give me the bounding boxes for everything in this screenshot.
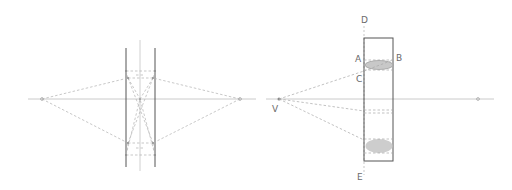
label-v: V xyxy=(272,104,279,114)
label-e: E xyxy=(357,172,363,182)
label-a: A xyxy=(355,54,362,64)
top-ellipse xyxy=(365,61,393,70)
label-c: C xyxy=(356,74,362,84)
diagram-canvas: D E A B C V xyxy=(0,0,512,190)
bottom-ellipse xyxy=(366,139,393,153)
right-dashed-construction xyxy=(279,60,393,153)
right-diagram: D E A B C V xyxy=(266,15,494,182)
label-d: D xyxy=(361,15,368,25)
label-b: B xyxy=(396,53,402,63)
left-diagram xyxy=(28,40,256,171)
left-dashed-construction xyxy=(42,71,240,155)
